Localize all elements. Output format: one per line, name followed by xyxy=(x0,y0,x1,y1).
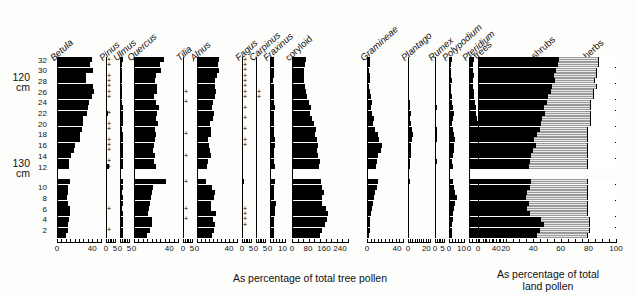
axis-tick xyxy=(101,239,102,243)
summary-axis-tick xyxy=(554,239,555,243)
pollen-bar xyxy=(57,159,69,164)
pollen-bar xyxy=(469,105,476,110)
pollen-bar xyxy=(270,116,274,121)
axis-tick xyxy=(298,239,299,243)
pollen-bar xyxy=(449,179,453,184)
pollen-bar xyxy=(120,159,123,164)
axis-tick-label: 0 xyxy=(48,244,66,253)
summary-segment-shrubs xyxy=(546,100,592,105)
summary-segment-shrubs xyxy=(526,206,588,211)
pollen-bar xyxy=(134,62,160,67)
summary-segment-shrubs xyxy=(529,211,588,216)
pollen-bar xyxy=(449,111,454,116)
pollen-bar xyxy=(435,159,437,164)
pollen-bar xyxy=(197,143,209,148)
cm-unit: cm xyxy=(16,167,30,179)
trace-marker: + xyxy=(184,206,188,212)
trace-marker: + xyxy=(107,110,111,116)
axis-tick xyxy=(430,239,431,243)
pollen-bar xyxy=(408,121,411,126)
pollen-bar xyxy=(367,68,369,73)
summary-row xyxy=(478,217,616,222)
summary-segment-trees xyxy=(478,179,530,184)
axis-tick xyxy=(233,239,234,243)
axis-tick xyxy=(348,239,349,243)
pollen-bar xyxy=(197,62,218,67)
summary-row xyxy=(478,206,616,211)
pollen-bar xyxy=(120,84,122,89)
axis-tick xyxy=(147,239,148,243)
pollen-bar xyxy=(408,201,409,206)
pollen-bar xyxy=(197,121,210,126)
summary-segment-shrubs xyxy=(539,228,590,233)
summary-segment-trees xyxy=(478,233,536,238)
pollen-bar xyxy=(120,105,123,110)
summary-segment-herbs xyxy=(588,185,616,190)
summary-segment-shrubs xyxy=(529,185,588,190)
pollen-bar xyxy=(134,153,155,158)
pollen-bar xyxy=(435,132,437,137)
pollen-bar xyxy=(367,132,378,137)
summary-segment-shrubs xyxy=(544,111,591,116)
summary-segment-herbs xyxy=(588,132,616,137)
pollen-bar xyxy=(120,185,123,190)
summary-segment-shrubs xyxy=(530,179,588,184)
pollen-bar xyxy=(197,228,214,233)
pollen-bar xyxy=(449,185,454,190)
summary-segment-herbs xyxy=(591,116,616,121)
pollen-bar xyxy=(435,73,436,78)
pollen-bar xyxy=(57,143,75,148)
summary-axis-tick xyxy=(499,239,500,243)
axis-tick xyxy=(221,239,222,243)
depth-label: 24 xyxy=(33,98,47,107)
axis-tick xyxy=(273,239,274,243)
axis-tick xyxy=(449,239,450,243)
pollen-bar xyxy=(134,228,150,233)
pollen-bar xyxy=(134,211,148,216)
axis-tick-label: 240 xyxy=(331,244,349,253)
summary-segment-herbs xyxy=(597,84,616,89)
depth-label: 8 xyxy=(33,194,47,203)
axis-tick xyxy=(342,239,343,243)
summary-segment-herbs xyxy=(599,57,616,62)
pollen-bar xyxy=(292,121,314,126)
pollen-bar xyxy=(120,206,122,211)
pollen-bar xyxy=(197,94,215,99)
pollen-bar xyxy=(57,132,80,137)
pollen-bar xyxy=(197,233,212,238)
summary-segment-trees xyxy=(478,111,544,116)
pollen-bar xyxy=(134,132,156,137)
pollen-bar xyxy=(292,57,306,62)
pollen-bar xyxy=(120,78,122,83)
pollen-bar xyxy=(120,143,123,148)
pollen-bar xyxy=(367,195,374,200)
summary-segment-herbs xyxy=(588,143,616,148)
pollen-bar xyxy=(292,201,322,206)
pollen-bar xyxy=(408,143,411,148)
axis-tick xyxy=(270,239,271,243)
pollen-bar xyxy=(449,143,454,148)
pollen-bar xyxy=(292,153,318,158)
pollen-bar xyxy=(292,222,325,227)
pollen-bar xyxy=(367,105,371,110)
summary-segment-herbs xyxy=(590,228,616,233)
axis-tick xyxy=(419,239,420,243)
pollen-bar xyxy=(120,127,122,132)
pollen-bar xyxy=(449,153,453,158)
summary-segment-trees xyxy=(478,121,540,126)
axis-tick xyxy=(201,239,202,243)
pollen-bar xyxy=(367,116,374,121)
pollen-bar xyxy=(367,100,372,105)
axis-tick xyxy=(192,239,193,243)
summary-row xyxy=(478,228,616,233)
pollen-bar xyxy=(120,132,123,137)
pollen-bar xyxy=(134,57,164,62)
pollen-bar xyxy=(57,137,80,142)
pollen-bar xyxy=(134,78,155,83)
trace-marker: + xyxy=(184,153,188,159)
pollen-bar xyxy=(408,78,409,83)
pollen-bar xyxy=(449,84,451,89)
depth-label: 12 xyxy=(33,163,47,172)
pollen-bar xyxy=(134,137,155,142)
summary-row xyxy=(478,121,616,126)
